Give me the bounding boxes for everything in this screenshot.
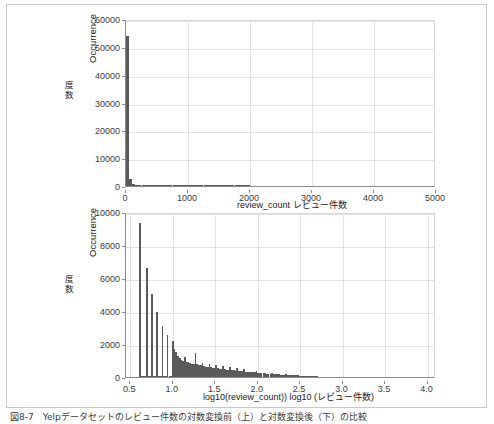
- y-axis-tick-label: 50000: [95, 43, 120, 53]
- x-axis-tick-label: 3.5: [378, 384, 391, 394]
- top-plot-area: [125, 20, 435, 187]
- y-axis-tick-label: 30000: [95, 99, 120, 109]
- x-axis-tick-label: 1.0: [165, 384, 178, 394]
- y-axis-tick-label: 0: [115, 182, 120, 192]
- x-axis-tick-label: 0.5: [123, 384, 136, 394]
- x-axis-tick-label: 4.0: [420, 384, 433, 394]
- figure-page: 度数 Occurrence 01000020000300004000050000…: [0, 0, 494, 424]
- histogram-bars: [126, 214, 434, 377]
- bottom-xaxis-label: log10(review_count)) log10 (レビュー件数): [203, 390, 374, 403]
- x-axis-tick-mark: [125, 190, 126, 193]
- x-axis-tick-mark: [373, 190, 374, 193]
- histogram-bar: [151, 294, 153, 377]
- x-axis-tick-mark: [129, 381, 130, 384]
- x-axis-tick-mark: [427, 381, 428, 384]
- histogram-bar: [146, 268, 148, 377]
- x-axis-tick-label: 1000: [177, 193, 197, 203]
- figure-frame: 度数 Occurrence 01000020000300004000050000…: [6, 4, 487, 408]
- y-axis-tick-label: 20000: [95, 126, 120, 136]
- y-axis-tick-label: 40000: [95, 71, 120, 81]
- histogram-bars: [126, 21, 434, 186]
- y-axis-tick-mark: [122, 378, 125, 379]
- y-axis-tick-label: 2000: [100, 340, 120, 350]
- histogram-bar: [162, 326, 164, 377]
- x-axis-tick-mark: [257, 381, 258, 384]
- x-axis-tick-mark: [214, 381, 215, 384]
- top-yaxis-ticks: 0100002000030000400005000060000: [7, 5, 121, 205]
- y-axis-tick-label: 6000: [100, 274, 120, 284]
- panel-raw-histogram: 度数 Occurrence 01000020000300004000050000…: [7, 5, 486, 205]
- y-axis-tick-label: 60000: [95, 15, 120, 25]
- histogram-bar: [316, 376, 318, 377]
- bottom-plot-area: [125, 213, 435, 378]
- histogram-bar: [247, 185, 250, 186]
- figure-caption: 図8-7 Yelpデータセットのレビュー件数の対数変換前（上）と対数変換後（下）…: [10, 410, 488, 423]
- y-axis-tick-label: 0: [115, 373, 120, 383]
- histogram-bar: [126, 36, 129, 186]
- x-axis-tick-mark: [299, 381, 300, 384]
- x-axis-tick-mark: [311, 190, 312, 193]
- x-axis-tick-mark: [342, 381, 343, 384]
- x-axis-tick-label: 0: [122, 193, 127, 203]
- histogram-bar: [156, 312, 158, 377]
- x-axis-tick-label: 5000: [425, 193, 445, 203]
- x-axis-tick-mark: [172, 381, 173, 384]
- bottom-yaxis-ticks: 0200040006000800010000: [7, 205, 121, 405]
- x-axis-tick-mark: [187, 190, 188, 193]
- x-axis-tick-mark: [435, 190, 436, 193]
- histogram-bar: [167, 335, 169, 377]
- x-axis-tick-mark: [249, 190, 250, 193]
- panel-log-histogram: 度数 Occurrence 0200040006000800010000 0.5…: [7, 205, 486, 405]
- x-axis-tick-mark: [384, 381, 385, 384]
- y-axis-tick-label: 4000: [100, 307, 120, 317]
- y-axis-tick-mark: [122, 187, 125, 188]
- y-axis-tick-label: 10000: [95, 154, 120, 164]
- x-axis-tick-label: 4000: [363, 193, 383, 203]
- histogram-bar: [139, 223, 141, 377]
- y-axis-tick-label: 8000: [100, 241, 120, 251]
- y-axis-tick-label: 10000: [95, 208, 120, 218]
